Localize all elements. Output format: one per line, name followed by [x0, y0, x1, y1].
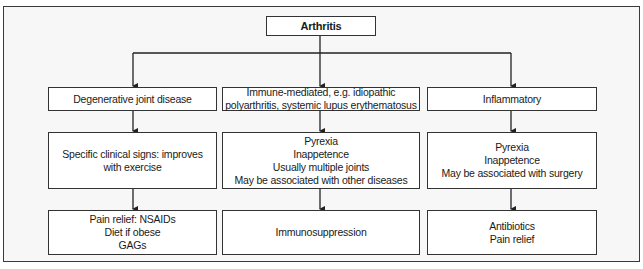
treatment-degenerative: Pain relief: NSAIDs Diet if obese GAGs	[48, 210, 217, 255]
signs-line: Inappetence	[441, 154, 582, 167]
treatment-line: Antibiotics	[489, 220, 535, 233]
category-degenerative: Degenerative joint disease	[48, 87, 217, 111]
signs-line: Pyrexia	[235, 135, 408, 148]
signs-inflammatory: Pyrexia Inappetence May be associated wi…	[427, 132, 597, 189]
signs-line: May be associated with surgery	[441, 167, 582, 180]
signs-line: with exercise	[62, 161, 202, 174]
treatment-immune-mediated: Immunosuppression	[222, 210, 420, 255]
treatment-line: Pain relief	[489, 233, 535, 246]
treatment-line: Diet if obese	[89, 226, 175, 239]
signs-line: May be associated with other diseases	[235, 174, 408, 187]
root-node-arthritis: Arthritis	[266, 16, 376, 36]
signs-line: Pyrexia	[441, 141, 582, 154]
signs-line: Usually multiple joints	[235, 161, 408, 174]
signs-degenerative: Specific clinical signs: improves with e…	[48, 132, 217, 189]
treatment-line: GAGs	[89, 239, 175, 252]
category-line: Immune-mediated, e.g. idiopathic	[225, 86, 417, 99]
category-line: Inflammatory	[483, 93, 541, 106]
category-line: polyarthritis, systemic lupus erythemato…	[225, 99, 417, 112]
signs-line: Specific clinical signs: improves	[62, 148, 202, 161]
treatment-line: Pain relief: NSAIDs	[89, 213, 175, 226]
category-line: Degenerative joint disease	[73, 93, 192, 106]
treatment-line: Immunosuppression	[275, 226, 366, 239]
category-immune-mediated: Immune-mediated, e.g. idiopathic polyart…	[222, 87, 420, 111]
treatment-inflammatory: Antibiotics Pain relief	[427, 210, 597, 255]
signs-immune-mediated: Pyrexia Inappetence Usually multiple joi…	[222, 132, 420, 189]
category-inflammatory: Inflammatory	[427, 87, 597, 111]
signs-line: Inappetence	[235, 148, 408, 161]
root-label: Arthritis	[301, 20, 342, 33]
